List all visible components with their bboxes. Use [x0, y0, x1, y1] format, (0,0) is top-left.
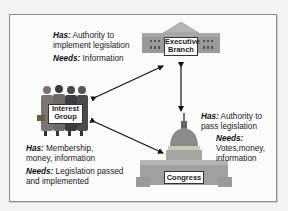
congress-needs-text: Needs: Votes,money, information	[216, 134, 265, 164]
congress-has-text: Has: Authority to pass legislation	[201, 112, 262, 132]
interest-label-line2: Group	[49, 113, 82, 121]
congress-needs-line2: information	[216, 154, 257, 163]
interest-has-line2: money, information	[26, 154, 95, 163]
executive-label-line2: Branch	[165, 46, 197, 54]
arrow-interest-executive	[96, 66, 163, 97]
interest-has-text: Has: Membership, money, information	[26, 144, 95, 164]
interest-group-label: Interest Group	[48, 104, 83, 124]
executive-has-label: Has:	[53, 31, 71, 40]
interest-needs-text: Needs: Legislation passed and implemente…	[26, 167, 123, 187]
interest-needs-line2: and implemented	[26, 177, 89, 186]
interest-has-label: Has:	[26, 144, 44, 153]
executive-needs-label: Needs:	[53, 54, 80, 63]
congress-has-line1: Authority to	[221, 112, 262, 121]
congress-label-text: Congress	[167, 173, 202, 182]
congress-label: Congress	[164, 171, 204, 184]
interest-needs-label: Needs:	[26, 167, 53, 176]
executive-needs-value: Information	[83, 54, 124, 63]
congress-has-line2: pass legislation	[201, 122, 257, 131]
congress-needs-line1: Votes,money,	[216, 144, 265, 153]
congress-needs-label: Needs:	[216, 134, 243, 143]
executive-needs-text: Needs: Information	[53, 54, 124, 64]
arrow-interest-congress	[95, 122, 163, 153]
interest-has-line1: Membership,	[46, 144, 93, 153]
executive-has-line1: Authority to	[73, 31, 114, 40]
executive-has-text: Has: Authority to implement legislation	[53, 31, 129, 51]
executive-has-line2: implement legislation	[53, 41, 129, 50]
executive-branch-label: Executive Branch	[164, 37, 198, 56]
congress-has-label: Has:	[201, 112, 219, 121]
interest-needs-line1: Legislation passed	[56, 167, 124, 176]
